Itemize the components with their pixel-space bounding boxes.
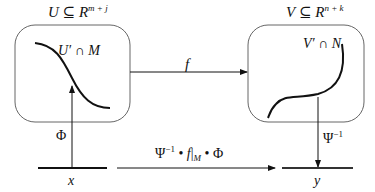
left-domain-label: U ⊆ Rm + j (48, 4, 108, 20)
diagram-canvas (0, 0, 375, 192)
phi-label: Φ (56, 129, 66, 143)
right-submanifold-label: V′ ∩ N (303, 37, 341, 51)
manifold-n-curve (268, 44, 343, 118)
point-y-label: y (314, 174, 320, 188)
psi-inverse-label: Ψ−1 (323, 130, 343, 146)
space-r: R (79, 4, 88, 20)
subset-symbol: ⊆ (63, 4, 76, 20)
set-u: U (48, 4, 59, 20)
f-label: f (185, 57, 189, 72)
subset-symbol: ⊆ (299, 4, 312, 20)
right-exponent: n + k (324, 3, 343, 13)
point-x-label: x (68, 174, 74, 188)
left-exponent: m + j (88, 3, 108, 13)
composite-map-label: Ψ−1 • f|M • Φ (155, 145, 223, 163)
set-v: V (286, 4, 295, 20)
left-submanifold-label: U′ ∩ M (58, 44, 100, 58)
right-domain-label: V ⊆ Rn + k (286, 4, 344, 20)
